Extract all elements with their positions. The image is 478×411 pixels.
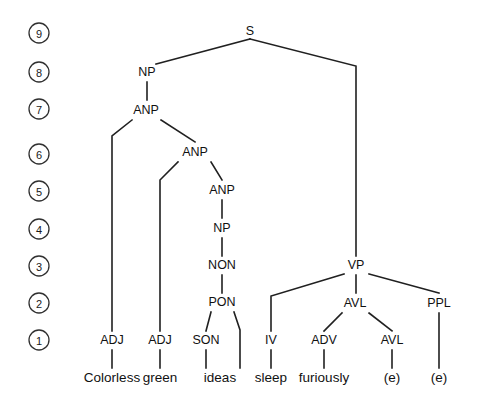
tree-edge-vp-to-ppl — [369, 274, 439, 293]
tree-leaf-w6: (e) — [384, 370, 401, 385]
tree-edge-anp1-to-anp2 — [161, 120, 195, 142]
level-markers-group: 987654321 — [29, 23, 49, 350]
tree-node-avl2: AVL — [381, 333, 404, 347]
tree-leaf-w7: (e) — [431, 370, 448, 385]
level-marker-8: 8 — [29, 62, 49, 82]
tree-node-vp: VP — [348, 258, 365, 272]
tree-nodes-group: SNPANPANPANPNPNONPONSONADJADJVPAVLPPLIVA… — [100, 24, 451, 347]
tree-node-avl1: AVL — [344, 296, 367, 310]
tree-edge-s-to-np1 — [156, 39, 250, 64]
level-number-text: 2 — [36, 298, 42, 310]
tree-edges-group — [112, 39, 439, 368]
tree-edge-pon-to-son — [206, 312, 211, 331]
level-marker-9: 9 — [29, 23, 49, 43]
tree-node-np1: NP — [138, 65, 155, 79]
level-number-text: 3 — [36, 261, 42, 273]
level-marker-1: 1 — [29, 330, 49, 350]
tree-edge-anp1-to-adj1 — [112, 120, 132, 331]
tree-node-iv: IV — [265, 333, 277, 347]
tree-node-adv: ADV — [311, 333, 337, 347]
level-number-text: 8 — [36, 67, 42, 79]
tree-leaf-w5: furiously — [299, 370, 350, 385]
tree-edge-anp2-to-anp3 — [211, 162, 222, 180]
level-marker-7: 7 — [29, 99, 49, 119]
tree-node-anp2: ANP — [182, 145, 208, 159]
tree-edge-s-to-vp — [250, 39, 356, 256]
level-marker-3: 3 — [29, 256, 49, 276]
level-number-text: 7 — [36, 104, 42, 116]
tree-node-np2: NP — [213, 221, 230, 235]
level-number-text: 4 — [36, 224, 42, 236]
tree-node-son: SON — [192, 333, 219, 347]
tree-node-adj2: ADJ — [148, 333, 172, 347]
tree-edge-avl1-to-adv — [324, 313, 342, 331]
tree-edge-avl1-to-avl2 — [369, 313, 392, 331]
tree-node-non: NON — [208, 258, 236, 272]
tree-node-anp3: ANP — [209, 183, 235, 197]
level-number-text: 6 — [36, 149, 42, 161]
level-marker-6: 6 — [29, 144, 49, 164]
tree-leaf-w1: Colorless — [84, 370, 141, 385]
tree-node-adj1: ADJ — [100, 333, 124, 347]
level-marker-4: 4 — [29, 219, 49, 239]
tree-leaf-w3: ideas — [204, 370, 237, 385]
tree-node-pon: PON — [208, 295, 235, 309]
level-number-text: 9 — [36, 28, 42, 40]
tree-canvas: 987654321 SNPANPANPANPNPNONPONSONADJADJV… — [0, 0, 478, 411]
tree-edge-anp2-to-adj2 — [160, 162, 178, 331]
tree-edge-pon-to-w3 — [234, 312, 240, 368]
tree-node-anp1: ANP — [133, 103, 159, 117]
tree-node-s: S — [246, 24, 254, 38]
level-marker-2: 2 — [29, 293, 49, 313]
level-marker-5: 5 — [29, 181, 49, 201]
level-number-text: 1 — [36, 335, 42, 347]
tree-node-ppl: PPL — [427, 296, 451, 310]
tree-leaf-w2: green — [143, 370, 178, 385]
tree-leaves-group: Colorlessgreenideassleepfuriously(e)(e) — [84, 370, 447, 385]
level-number-text: 5 — [36, 186, 42, 198]
tree-leaf-w4: sleep — [255, 370, 287, 385]
syntax-tree-diagram: 987654321 SNPANPANPANPNPNONPONSONADJADJV… — [0, 0, 478, 411]
